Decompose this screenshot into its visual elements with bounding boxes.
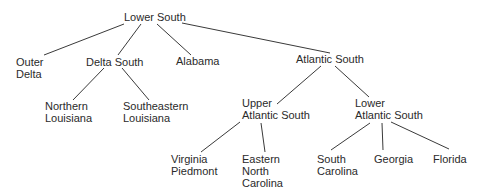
node-alabama: Alabama xyxy=(176,55,219,67)
edge-atlantic-south-to-lower-atlantic-south xyxy=(335,66,369,97)
node-label-line: Louisiana xyxy=(123,112,188,124)
node-northern-louisiana: NorthernLouisiana xyxy=(45,100,92,124)
node-label-line: Florida xyxy=(433,153,467,165)
node-label-line: Carolina xyxy=(317,165,358,177)
node-label-line: Atlantic South xyxy=(242,109,310,121)
node-delta-south: Delta South xyxy=(86,56,143,68)
node-label-line: Delta South xyxy=(86,56,143,68)
node-label-line: Georgia xyxy=(374,153,413,165)
node-lower-south: Lower South xyxy=(124,11,186,23)
node-outer-delta: OuterDelta xyxy=(16,56,44,80)
edge-delta-south-to-southeastern-louisiana xyxy=(122,68,149,100)
node-virginia-piedmont: VirginiaPiedmont xyxy=(171,153,217,177)
node-label-line: Atlantic South xyxy=(296,53,364,65)
node-label-line: Southeastern xyxy=(123,100,188,112)
edge-lower-south-to-outer-delta xyxy=(44,24,124,55)
node-georgia: Georgia xyxy=(374,153,413,165)
node-label-line: Lower South xyxy=(124,11,186,23)
node-label-line: Virginia xyxy=(171,153,217,165)
node-label-line: Atlantic South xyxy=(355,109,423,121)
node-florida: Florida xyxy=(433,153,467,165)
edge-lower-south-to-atlantic-south xyxy=(182,23,330,53)
node-label-line: Outer xyxy=(16,56,44,68)
edge-lower-south-to-delta-south xyxy=(118,24,141,55)
node-eastern-north-carolina: EasternNorthCarolina xyxy=(242,153,283,189)
node-label-line: Delta xyxy=(16,68,44,80)
node-label-line: Lower xyxy=(355,97,423,109)
node-label-line: South xyxy=(317,153,358,165)
node-label-line: Northern xyxy=(45,100,92,112)
node-label-line: Eastern xyxy=(242,153,283,165)
edge-lower-atlantic-south-to-florida xyxy=(391,122,449,149)
node-atlantic-south: Atlantic South xyxy=(296,53,364,65)
edge-upper-atlantic-south-to-eastern-north-carolina xyxy=(261,123,265,152)
node-label-line: Alabama xyxy=(176,55,219,67)
edge-upper-atlantic-south-to-virginia-piedmont xyxy=(201,122,240,152)
node-lower-atlantic-south: LowerAtlantic South xyxy=(355,97,423,121)
node-label-line: North xyxy=(242,165,283,177)
node-label-line: Carolina xyxy=(242,177,283,189)
node-upper-atlantic-south: UpperAtlantic South xyxy=(242,97,310,121)
node-label-line: Louisiana xyxy=(45,112,92,124)
edge-lower-atlantic-south-to-georgia xyxy=(382,123,383,150)
node-south-carolina: SouthCarolina xyxy=(317,153,358,177)
node-southeastern-louisiana: SoutheasternLouisiana xyxy=(123,100,188,124)
region-tree-diagram: Lower SouthOuterDeltaDelta SouthAlabamaA… xyxy=(0,0,479,195)
edge-lower-south-to-alabama xyxy=(157,24,191,55)
node-label-line: Piedmont xyxy=(171,165,217,177)
edge-delta-south-to-northern-louisiana xyxy=(73,68,104,100)
edge-lower-atlantic-south-to-south-carolina xyxy=(331,123,370,150)
node-label-line: Upper xyxy=(242,97,310,109)
